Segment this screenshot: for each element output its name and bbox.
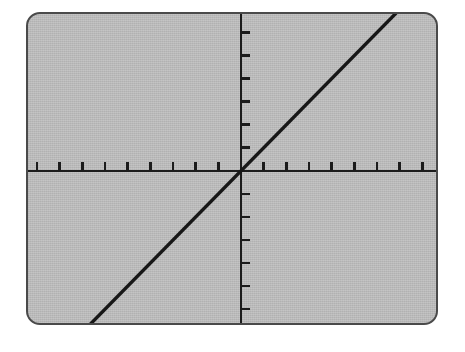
function-line (42, 14, 430, 323)
coordinate-graph (28, 14, 436, 323)
x-axis-ticks (37, 162, 422, 170)
graph-plot-area[interactable] (28, 14, 436, 323)
calculator-screen[interactable] (26, 12, 438, 325)
function-line-series (42, 14, 430, 323)
screenshot-root (0, 0, 465, 352)
